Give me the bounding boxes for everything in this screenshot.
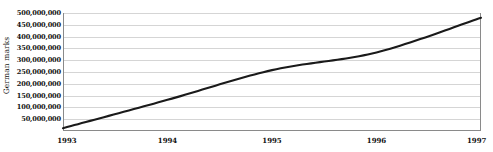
x-tick-label: 1994 [158, 136, 177, 145]
y-tick-label: 300,000,000 [12, 57, 61, 64]
y-tick-label: 150,000,000 [12, 92, 61, 99]
y-tick-label: 500,000,000 [12, 10, 61, 17]
y-tick-label: 200,000,000 [12, 81, 61, 88]
series-polyline [63, 18, 481, 128]
y-tick-label: 450,000,000 [12, 22, 61, 29]
data-series-line [63, 13, 481, 131]
x-tick-label: 1993 [57, 136, 76, 145]
x-tick-label: 1995 [262, 136, 281, 145]
y-axis-tick-labels: 50,000,000100,000,000150,000,000200,000,… [12, 13, 61, 131]
x-tick-label: 1997 [467, 136, 486, 145]
y-axis-title-label: German marks [3, 37, 12, 95]
y-tick-label: 350,000,000 [12, 45, 61, 52]
y-tick-label: 50,000,000 [12, 116, 61, 123]
line-chart: German marks 50,000,000100,000,000150,00… [0, 0, 493, 152]
y-tick-label: 250,000,000 [12, 69, 61, 76]
x-tick-label: 1996 [367, 136, 386, 145]
y-tick-label: 400,000,000 [12, 33, 61, 40]
y-tick-label: 100,000,000 [12, 104, 61, 111]
x-axis-tick-labels: 19931994199519961997 [63, 136, 481, 150]
plot-area [63, 13, 481, 131]
